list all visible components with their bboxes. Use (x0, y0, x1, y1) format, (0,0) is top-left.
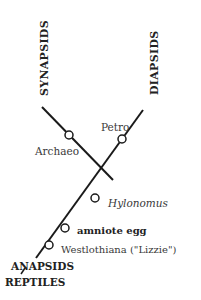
synapsid-branch-line (42, 107, 113, 180)
diapsids-label: DIAPSIDS (148, 31, 161, 95)
amniote-egg-label: amniote egg (77, 225, 147, 236)
westlothiana-label: Westlothiana ("Lizzie") (61, 244, 177, 255)
synapsids-label: SYNAPSIDS (38, 20, 51, 96)
reptiles-label: REPTILES (5, 276, 65, 288)
petro-label: Petro (101, 121, 129, 133)
amniote-egg-node (61, 224, 69, 232)
hylonomus-label: Hylonomus (107, 197, 169, 209)
archaeo-node (65, 131, 73, 139)
westlothiana-node (45, 241, 53, 249)
cladogram: SYNAPSIDS DIAPSIDS Archaeo Petro Hylonom… (0, 0, 201, 300)
archaeo-label: Archaeo (34, 145, 79, 157)
petro-node (118, 135, 126, 143)
anapsids-label: ANAPSIDS (10, 260, 74, 272)
hylonomus-node (91, 194, 99, 202)
